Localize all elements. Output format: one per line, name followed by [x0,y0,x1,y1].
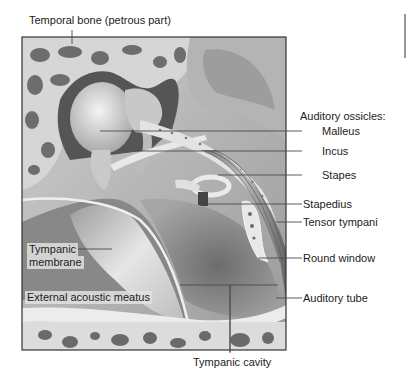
label-temporal-bone: Temporal bone (petrous part) [29,14,171,27]
label-tensor-tympani: Tensor tympani [303,216,378,229]
label-auditory-tube: Auditory tube [303,292,368,305]
page-margin-rule [404,14,406,58]
label-auditory-ossicles-heading: Auditory ossicles: [300,110,386,123]
middle-ear-figure: Temporal bone (petrous part) Auditory os… [0,0,407,370]
label-external-acoustic-meatus: External acoustic meatus [25,291,152,304]
label-incus: Incus [322,145,348,158]
label-stapedius: Stapedius [303,198,352,211]
label-tympanic-membrane-line2: membrane [27,256,84,269]
label-stapes: Stapes [322,169,356,182]
label-malleus: Malleus [322,125,360,138]
label-tympanic-cavity: Tympanic cavity [193,356,271,369]
anatomy-illustration [0,0,407,370]
label-round-window: Round window [303,252,375,265]
label-tympanic-membrane-line1: Tympanic [27,243,78,256]
